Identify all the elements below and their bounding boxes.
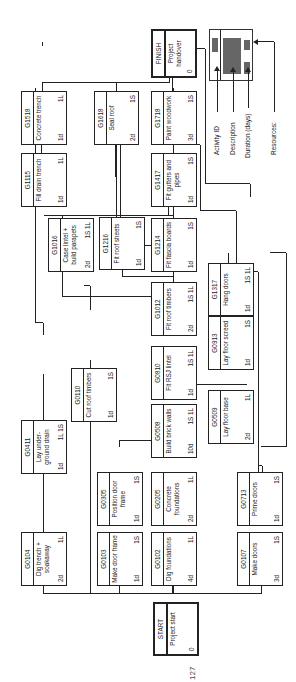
connector xyxy=(116,145,117,217)
page-number: 127 xyxy=(188,667,197,680)
connector xyxy=(173,145,174,153)
node-duration: 1d xyxy=(57,134,65,141)
node-g1317[interactable]: G1317 Hang doors 1d1S 1L xyxy=(208,263,254,316)
connector xyxy=(168,207,169,216)
node-finish[interactable]: FINISH Project handover 0 xyxy=(151,29,197,78)
node-g1016[interactable]: G1016 Case lintel + build parapets 2d1S … xyxy=(48,218,94,272)
arrow-head-icon xyxy=(230,67,236,72)
node-description: Cut roof timbers xyxy=(84,369,93,421)
node-resources: 1S 1L xyxy=(187,350,195,366)
connector xyxy=(236,211,237,263)
connector xyxy=(262,466,263,472)
node-resources: 1L xyxy=(57,95,65,102)
node-resources: 1L xyxy=(244,394,252,401)
legend-duration-swatch xyxy=(244,40,250,50)
node-description: Make doors xyxy=(250,533,259,585)
node-g0305[interactable]: G0305 Position door frame 1d1S xyxy=(97,472,143,526)
node-resources: 1L xyxy=(187,536,195,543)
node-g1618[interactable]: G1618 Seal roof 2d1S xyxy=(94,91,139,145)
node-description: Concrete foundations xyxy=(164,473,180,525)
node-id: G0913 xyxy=(209,317,221,369)
node-g0810[interactable]: G0810 Fit RSJ lintel 1d1S 1L xyxy=(151,346,197,400)
connector xyxy=(42,42,43,46)
node-id: G1618 xyxy=(95,92,107,144)
node-duration: 2d xyxy=(244,433,252,440)
node-description: Lay floor base xyxy=(221,391,230,443)
node-g0509[interactable]: G0509 Lay floor base 2d1L xyxy=(208,390,254,444)
node-duration: 2d xyxy=(84,261,92,268)
connector xyxy=(172,78,173,91)
node-duration: 1d xyxy=(273,515,281,522)
node-g1115[interactable]: G1115 Fill drain trench 1d1L xyxy=(21,153,67,207)
node-g1214[interactable]: G1214 Fit fascia boards 1d1S xyxy=(151,218,197,272)
node-start[interactable]: START Project start 0 xyxy=(153,602,199,656)
node-resources: 1S xyxy=(107,372,115,380)
node-id: G0107 xyxy=(238,533,250,585)
precedence-network-diagram: START Project start 0 G0104 Dig trench +… xyxy=(0,0,296,682)
node-id: G1115 xyxy=(22,154,34,206)
arrow-head-icon xyxy=(214,66,220,71)
node-duration: 2d xyxy=(187,515,195,522)
connector xyxy=(173,272,174,282)
node-duration: 1d xyxy=(133,515,141,522)
node-resources: 1S xyxy=(133,536,141,544)
node-resources: 1L xyxy=(187,476,195,483)
node-g0103[interactable]: G0103 Make door frame 1d1S xyxy=(97,532,143,586)
node-resources: 1S 1L xyxy=(244,267,252,283)
node-g0508[interactable]: G0508 Build brick walls 10d1S 1L xyxy=(151,404,197,458)
node-id: G1016 xyxy=(49,219,61,271)
node-id: G0509 xyxy=(209,391,221,443)
connector xyxy=(205,49,206,184)
node-g0205[interactable]: G0205 Concrete foundations 2d1L xyxy=(151,472,197,526)
connector xyxy=(250,184,251,197)
node-g1518[interactable]: G1518 Concrete trench 1d1L xyxy=(21,91,67,145)
node-g0102[interactable]: G0102 Dig foundations 4d1L xyxy=(151,532,197,586)
connector xyxy=(41,145,42,153)
node-description: Case lintel + build parapets xyxy=(61,219,77,271)
node-duration: 2d xyxy=(129,134,137,141)
legend-label-resources: Resources: xyxy=(270,122,277,155)
node-resources: 1S xyxy=(273,476,281,484)
node-resources: 1S xyxy=(129,95,137,103)
node-g0913[interactable]: G0913 Lay floor screed 1d1S xyxy=(208,316,254,370)
connector xyxy=(173,207,174,218)
connector xyxy=(42,82,169,83)
node-description: Dig foundations xyxy=(164,533,173,585)
node-g1417[interactable]: G1417 Fit gutters and pipes 1d1S xyxy=(151,153,197,207)
node-g0110[interactable]: G0110 Cut roof timbers 1d1S xyxy=(71,368,117,422)
node-description: Fill drain trench xyxy=(34,154,43,206)
node-id: G0305 xyxy=(98,473,110,525)
node-duration: 2d xyxy=(187,325,195,332)
connector xyxy=(169,78,170,83)
node-resources: 1L xyxy=(57,536,65,543)
legend-label-description: Description xyxy=(229,122,236,155)
node-duration: 1d xyxy=(244,359,252,366)
node-description: Prime doors xyxy=(250,473,259,525)
node-g0713[interactable]: G0713 Prime doors 1d1S xyxy=(237,472,283,526)
node-resources: 1S xyxy=(135,221,143,229)
node-id: G0810 xyxy=(152,347,164,399)
legend-pointer xyxy=(233,69,234,112)
connector xyxy=(119,441,120,447)
legend-pointer xyxy=(217,68,218,112)
connector xyxy=(62,216,63,218)
node-resources: 1S 1L xyxy=(84,222,92,238)
node-g0107[interactable]: G0107 Make doors 3d1S xyxy=(237,532,283,586)
node-duration: 3d xyxy=(187,134,195,141)
node-g0411[interactable]: G0411 Lay under-ground drain 1d1L 1S xyxy=(21,420,67,474)
connector xyxy=(270,252,286,253)
node-description: Lay floor screed xyxy=(221,317,230,369)
connector xyxy=(261,446,286,447)
node-id: FINISH xyxy=(153,31,166,76)
arrow-head-icon xyxy=(253,39,258,45)
node-description: Fit gutters and pipes xyxy=(164,154,180,206)
node-description: Dig trench + soakaway xyxy=(34,533,50,585)
legend-key-box xyxy=(209,29,253,81)
node-id: G0713 xyxy=(238,473,250,525)
node-g1216[interactable]: G1216 Fit roof sheets 1d1S xyxy=(99,217,145,270)
node-duration: 1d xyxy=(187,389,195,396)
node-g0104[interactable]: G0104 Dig trench + soakaway 2d1L xyxy=(21,532,67,586)
node-g1012[interactable]: G1012 Fit roof timbers 2d1S 1L xyxy=(151,282,197,336)
node-g1718[interactable]: G1718 Paint woodwork 3d1S xyxy=(151,91,197,145)
connector xyxy=(120,145,121,217)
